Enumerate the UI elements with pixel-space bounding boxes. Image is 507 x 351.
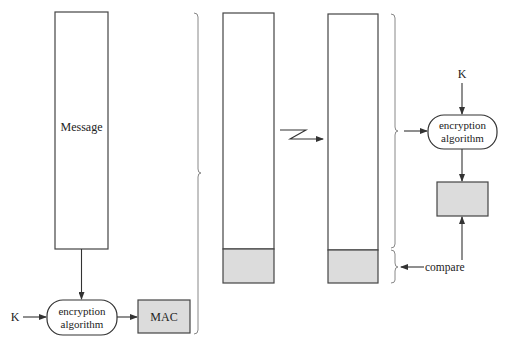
receiver-key-label: K [458,67,467,81]
compare-label: compare [425,261,465,274]
lightning-arrow-icon [280,130,323,139]
received-mac-brace [391,250,398,283]
receiver-algorithm-line1: encryption [439,119,487,131]
sender-brace [194,13,201,334]
mac-label: MAC [150,310,177,324]
message-label: Message [61,120,103,134]
sender-group: Message K encryption algorithm MAC [11,12,190,335]
mac-diagram: Message K encryption algorithm MAC K enc… [0,0,507,351]
received-message-box [328,14,378,250]
transmitted-message [223,13,274,283]
received-message [328,14,378,283]
transmitted-mac-box [223,249,274,283]
sender-algorithm-line2: algorithm [61,318,104,330]
sender-algorithm-line1: encryption [58,305,106,317]
receiver-algorithm-line2: algorithm [441,132,484,144]
computed-mac-box [437,182,488,216]
received-message-brace [391,14,398,248]
transmitted-message-box [223,13,274,249]
receiver-group: K encryption algorithm compare [401,67,497,274]
sender-key-label: K [11,310,20,324]
received-mac-box [328,250,378,283]
